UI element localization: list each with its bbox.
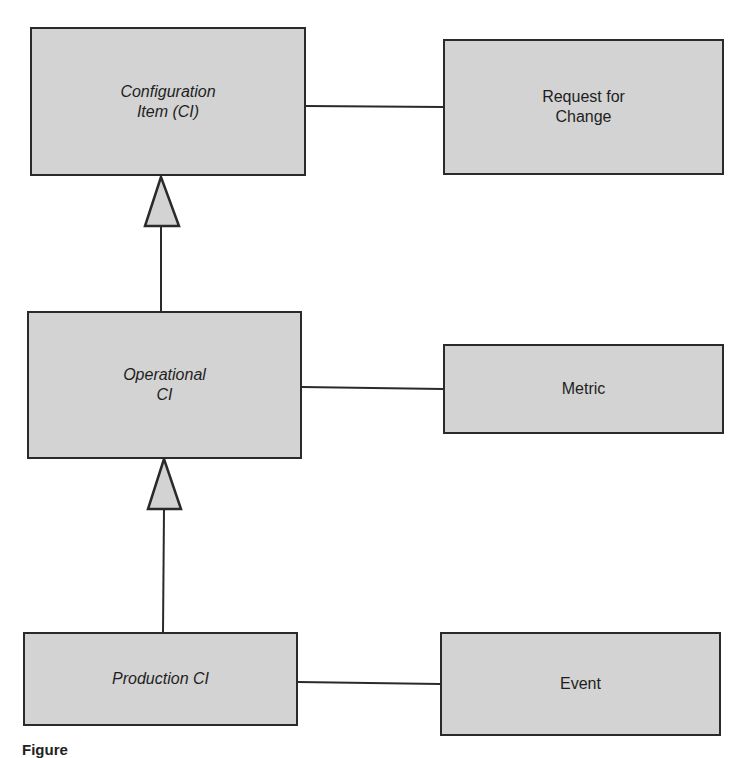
node-label: Event <box>560 674 601 694</box>
node-label: Request for Change <box>542 87 625 127</box>
generalization-arrow-ci <box>145 177 179 226</box>
edge-prod-event <box>298 682 440 684</box>
generalization-arrow-op <box>148 459 181 509</box>
node-label: Production CI <box>112 669 209 689</box>
node-configuration-item: Configuration Item (CI) <box>30 27 306 176</box>
edge-ci-rfc <box>306 106 443 107</box>
edge-prod-op-line <box>163 509 164 632</box>
node-event: Event <box>440 632 721 736</box>
figure-caption: Figure <box>22 741 68 758</box>
node-operational-ci: Operational CI <box>27 311 302 459</box>
node-label: Metric <box>562 379 606 399</box>
node-label: Configuration Item (CI) <box>120 82 215 122</box>
node-request-for-change: Request for Change <box>443 39 724 175</box>
node-production-ci: Production CI <box>23 632 298 726</box>
node-label: Operational CI <box>123 365 206 405</box>
node-metric: Metric <box>443 344 724 434</box>
edge-op-metric <box>302 387 443 389</box>
